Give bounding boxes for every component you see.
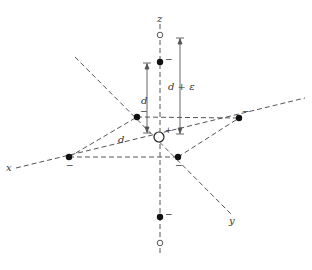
edge-left: [69, 117, 137, 157]
y-axis-label: y: [228, 215, 235, 226]
y-axis-line: [75, 57, 231, 214]
sign-equatorial-front-right: −: [175, 160, 183, 170]
x-axis-label: x: [6, 162, 12, 173]
sign-equatorial-left: −: [66, 160, 74, 170]
central-positive-ion: [154, 132, 164, 142]
charge-top-axial: [157, 59, 163, 65]
charge-bottom-axial: [157, 214, 163, 220]
bottom-ring-icon: [157, 240, 163, 246]
arrowhead-up: [145, 64, 149, 69]
top-ring-icon: [157, 32, 163, 38]
dim-d-eps-label: d + ε: [168, 81, 195, 92]
edge-right: [178, 118, 239, 157]
z-axis-label: z: [156, 13, 163, 24]
sign-center: +: [165, 126, 172, 135]
diagram-canvas: d d + ε d z x y − − − − − − +: [0, 0, 312, 270]
sign-equatorial-right: −: [242, 106, 250, 116]
dim-d-vertical-label: d: [141, 95, 147, 106]
edge-back: [137, 117, 239, 118]
dim-d-horizontal-label: d: [118, 134, 124, 145]
sign-equatorial-back-left: −: [140, 106, 148, 116]
sign-top-axial: −: [165, 54, 173, 64]
octahedral-charge-diagram: d d + ε d z x y − − − − − − +: [0, 0, 312, 270]
sign-bottom-axial: −: [165, 209, 173, 219]
